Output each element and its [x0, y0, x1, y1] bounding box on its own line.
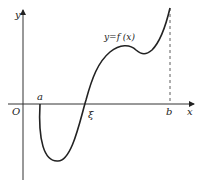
x-axis-label: x [187, 106, 193, 117]
point-a-label: a [37, 91, 43, 102]
point-xi-label: ξ [88, 109, 94, 120]
point-b-label: b [166, 106, 172, 117]
curve-label: y=f (x) [103, 32, 135, 42]
y-axis-label: y [14, 9, 21, 20]
graph-figure: y x O a ξ b y=f (x) [0, 0, 199, 195]
function-curve [40, 8, 170, 161]
origin-label: O [12, 106, 20, 117]
